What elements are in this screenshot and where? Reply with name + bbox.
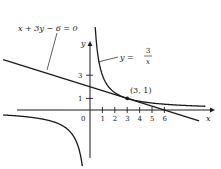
x-tick-label: 5 xyxy=(150,115,154,123)
tangent-point xyxy=(125,97,129,101)
y-tick-label: 3 xyxy=(78,72,82,80)
y-axis-arrow-icon xyxy=(88,41,93,46)
x-axis-arrow-icon xyxy=(210,108,215,113)
x-tick-label: 4 xyxy=(138,115,143,123)
x-tick-label: 3 xyxy=(125,115,129,123)
hyperbola-label-leader xyxy=(98,57,118,62)
graph: x + 3y − 6 = 0 y = 3 x (3, 1) x y 0 1234… xyxy=(0,0,221,169)
line-label-leader xyxy=(47,33,57,70)
hyperbola-branch-left xyxy=(3,115,82,166)
line-equation-label: x + 3y − 6 = 0 xyxy=(18,24,78,33)
x-tick-label: 1 xyxy=(100,115,104,123)
hyperbola-equation-label: y = xyxy=(119,53,134,62)
curves xyxy=(3,27,205,166)
origin-label: 0 xyxy=(81,115,85,123)
hyperbola-label-numerator: 3 xyxy=(146,47,150,55)
point-label: (3, 1) xyxy=(130,86,152,95)
x-tick-label: 6 xyxy=(162,115,167,123)
x-tick-label: 2 xyxy=(113,115,117,123)
hyperbola-label-denominator: x xyxy=(146,58,150,66)
y-tick-label: 1 xyxy=(78,95,82,103)
y-axis-label: y xyxy=(80,39,86,48)
axes xyxy=(17,41,215,158)
x-axis-label: x xyxy=(206,114,211,123)
